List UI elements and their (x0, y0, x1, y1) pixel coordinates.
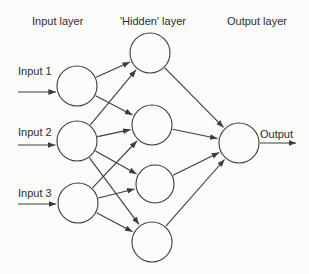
node-I3-input (58, 183, 98, 223)
edge-I2-H4 (90, 158, 139, 224)
diagram-frame: Input 1Input 2Input 3OutputInput layer'H… (0, 0, 309, 274)
node-I2-input (57, 121, 97, 161)
edge-I3-H2 (93, 141, 137, 188)
nodes (57, 33, 259, 262)
node-O-output (219, 123, 259, 163)
edge-H3-O (173, 153, 219, 176)
input-label-1: Input 1 (18, 65, 52, 77)
edge-I2-H2 (98, 130, 131, 137)
node-H4-hidden (132, 222, 172, 262)
edge-H4-O (166, 160, 225, 227)
edges (90, 62, 225, 232)
header-input-layer: Input layer (32, 15, 84, 27)
input-label-2: Input 2 (18, 126, 52, 138)
network-diagram: Input 1Input 2Input 3OutputInput layer'H… (0, 0, 309, 274)
edge-I3-H4 (97, 213, 133, 232)
edge-I3-H3 (98, 189, 134, 198)
header-hidden-layer: 'Hidden' layer (120, 15, 186, 27)
header-output-layer: Output layer (227, 15, 287, 27)
edge-I1-H1 (96, 62, 130, 77)
input-label-3: Input 3 (18, 187, 52, 199)
node-H1-hidden (130, 33, 170, 73)
edge-I2-H1 (90, 70, 136, 125)
edge-H2-O (173, 129, 218, 138)
node-H3-hidden (136, 165, 174, 203)
output-label: Output (260, 128, 293, 140)
node-H2-hidden (132, 105, 172, 145)
edge-H1-O (165, 68, 224, 128)
node-I1-input (57, 66, 97, 106)
